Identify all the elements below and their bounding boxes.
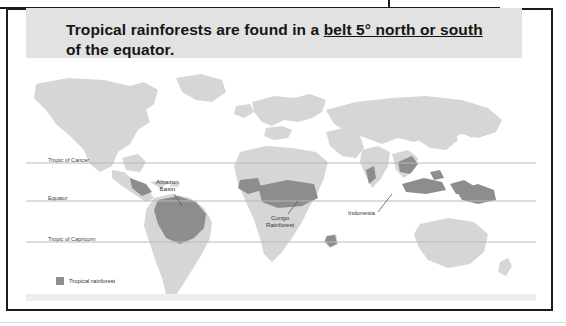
world-map: Tropic of Cancer Equator Tropic of Capri… xyxy=(26,66,536,301)
legend-label-tropical-rainforest: Tropical rainforest xyxy=(69,278,115,284)
annotation-indonesia-line1: Indonesia xyxy=(348,209,375,216)
annotation-indonesia: Indonesia xyxy=(348,209,375,216)
caption-line2: of the equator. xyxy=(66,41,174,58)
world-map-graphic xyxy=(26,66,536,301)
legend-swatch-tropical-rainforest xyxy=(56,277,64,285)
caption-text: Tropical rainforests are found in a belt… xyxy=(66,20,536,60)
label-tropic-of-cancer: Tropic of Cancer xyxy=(48,157,89,163)
caption-banner: Tropical rainforests are found in a belt… xyxy=(26,8,522,58)
annotation-amazon-basin: Amazon Basin xyxy=(156,178,179,193)
map-legend: Tropical rainforest xyxy=(56,277,115,285)
annotation-congo-rainforest-line2: Rainforest xyxy=(266,221,294,228)
annotation-congo-rainforest: Congo Rainforest xyxy=(266,214,294,229)
annotation-congo-rainforest-line1: Congo xyxy=(271,214,289,221)
caption-line1-prefix: Tropical rainforests are found in a xyxy=(66,21,324,38)
label-equator: Equator xyxy=(48,195,68,201)
caption-line1-underlined: belt 5° north or south xyxy=(324,21,483,38)
annotation-amazon-basin-line2: Basin xyxy=(160,185,175,192)
annotation-amazon-basin-line1: Amazon xyxy=(156,178,179,185)
figure-page: Tropical rainforests are found in a belt… xyxy=(0,0,566,326)
bottom-hairline xyxy=(0,322,566,323)
label-tropic-of-capricorn: Tropic of Capricorn xyxy=(48,236,95,242)
